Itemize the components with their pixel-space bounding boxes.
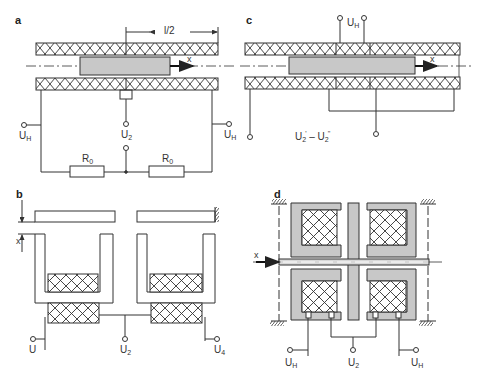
- label-u2-difference: U2' – U2'': [295, 130, 330, 143]
- terminal-uh-right: [227, 122, 232, 127]
- u-core-left: [35, 234, 113, 303]
- terminal-out-right: [374, 132, 379, 137]
- label-r0-left: R0: [82, 154, 93, 165]
- coil-terminal: [329, 312, 334, 318]
- label-u2-a: U2: [121, 130, 132, 141]
- terminal-uh-c-right: [362, 16, 367, 21]
- coil-bottom-right: [370, 281, 406, 312]
- primary-coil-left: [48, 274, 98, 292]
- ground-hatch: [270, 321, 284, 326]
- coil-top-right: [370, 210, 406, 245]
- panel-b: [18, 200, 220, 350]
- panel-c: [240, 16, 472, 140]
- terminal-u2-b: [123, 337, 128, 342]
- axis-label-x-c: x: [430, 55, 435, 64]
- label-u-b: U: [29, 345, 36, 356]
- panel-letter-b: b: [16, 189, 23, 200]
- terminal-u2-bottom: [124, 146, 129, 151]
- axis-label-x-a: x: [187, 55, 192, 64]
- terminal-u4-b: [215, 337, 220, 342]
- movable-core: [80, 57, 170, 75]
- coil-terminal: [306, 312, 311, 318]
- panel-letter-a: a: [15, 15, 21, 26]
- terminal-u-b: [31, 337, 36, 342]
- u-core-right: [137, 234, 215, 303]
- ground-hatch: [421, 199, 435, 204]
- axis-label-x-b: x: [16, 237, 21, 246]
- primary-coil-right: [150, 274, 202, 292]
- label-uh-right-a: UH: [224, 130, 236, 141]
- label-u2-d: U2: [348, 358, 359, 369]
- resistor-r0-left: [70, 166, 104, 177]
- terminal-u2-top: [124, 122, 129, 127]
- terminal-uh-d-right: [414, 348, 419, 353]
- label-uh-c: UH: [347, 18, 359, 29]
- label-u4-b: U4: [214, 345, 225, 356]
- terminal-uh-d-left: [288, 348, 293, 353]
- diagram-svg: [0, 0, 481, 378]
- support-hatch: [215, 207, 219, 222]
- dimension-label-l-half: l/2: [164, 26, 175, 36]
- figure-canvas: a c b d l/2 x UH UH U2 R0 R0 UH x U2' – …: [0, 0, 481, 378]
- coil-bottom-left: [302, 281, 337, 312]
- axis-label-x-d: x: [254, 251, 259, 260]
- coil-terminal: [396, 312, 401, 318]
- panel-letter-c: c: [246, 15, 252, 26]
- movable-core-c: [289, 57, 415, 74]
- terminal-uh-c-left: [338, 16, 343, 21]
- panel-letter-d: d: [274, 189, 281, 200]
- lower-coil-c: [245, 77, 460, 89]
- coil-terminal: [373, 312, 378, 318]
- junction-dot: [125, 171, 128, 174]
- label-r0-right: R0: [162, 154, 173, 165]
- armature-left: [35, 211, 115, 222]
- coil-top-left: [302, 210, 337, 245]
- ground-hatch: [419, 321, 433, 326]
- terminal-out-left: [248, 135, 253, 140]
- panel-a: [22, 27, 235, 177]
- label-uh-d-left: UH: [285, 358, 297, 369]
- upper-coil-c: [245, 43, 460, 55]
- label-uh-d-right: UH: [411, 358, 423, 369]
- center-tap-block: [120, 90, 132, 99]
- panel-d: [253, 199, 442, 356]
- secondary-coil-left: [48, 303, 99, 323]
- armature-right: [137, 211, 215, 222]
- label-uh-left-a: UH: [19, 131, 31, 142]
- resistor-r0-right: [149, 166, 184, 177]
- lower-coil: [36, 78, 218, 90]
- terminal-uh-left: [22, 123, 27, 128]
- terminal-u2-d: [351, 348, 356, 353]
- secondary-coil-right: [151, 303, 202, 323]
- label-u2-b: U2: [120, 345, 131, 356]
